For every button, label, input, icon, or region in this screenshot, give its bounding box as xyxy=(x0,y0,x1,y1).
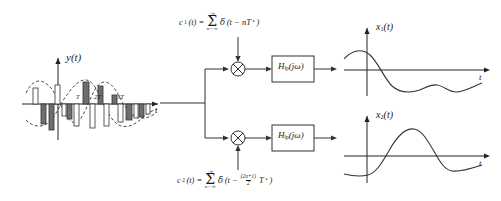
sample-bar xyxy=(134,104,138,118)
sample-bar xyxy=(118,104,123,122)
x1-curve xyxy=(344,51,482,92)
tick-label-T: T xyxy=(76,93,80,100)
sample-bar xyxy=(83,82,89,104)
tick-label-3T: 3T xyxy=(117,93,124,100)
tick-label-2T: 2T xyxy=(94,93,101,100)
output-signal-x2-plot xyxy=(340,101,501,201)
carrier-equation-bottom: c2(t) = +∞ Σ n=−∞ δ(t − (2n+1)2T*) xyxy=(177,170,272,190)
x1-axes xyxy=(344,28,490,96)
multiplexed-signal-plot: y(t) t T 2T 3T xyxy=(0,0,175,201)
x2-time-axis-label: t xyxy=(479,159,482,168)
y-plot-svg xyxy=(0,0,175,201)
recovered-signals-panel: x1(t) t x2(t) t xyxy=(340,0,501,201)
top-branch xyxy=(205,37,337,82)
lowpass-filter-top-label: Hlp(jω) xyxy=(278,62,304,72)
sample-bar xyxy=(33,88,38,104)
x2-axis-label: x2(t) xyxy=(376,110,393,121)
bottom-branch xyxy=(205,125,337,170)
lowpass-filter-bottom-label: Hlp(jω) xyxy=(278,131,304,141)
x2-axes xyxy=(344,116,490,183)
sample-bar xyxy=(41,104,46,124)
carrier-equation-top: c1(t) = +∞ Σ n=−∞ δ(t − nT*) xyxy=(179,12,259,32)
sample-bar xyxy=(139,104,144,117)
output-signal-x1-plot xyxy=(340,0,501,100)
signal-processing-figure: y(t) t T 2T 3T xyxy=(0,0,501,201)
sample-bar xyxy=(90,104,95,128)
x1-axis-label: x1(t) xyxy=(376,22,393,33)
demultiplexer-block-diagram: c1(t) = +∞ Σ n=−∞ δ(t − nT*) c2(t) = +∞ … xyxy=(165,0,345,201)
sample-bar xyxy=(104,104,109,126)
input-wire xyxy=(160,69,205,138)
sample-bar xyxy=(62,104,66,116)
x2-curve xyxy=(344,129,482,176)
sample-bar xyxy=(146,104,150,114)
y-axis-label: y(t) xyxy=(66,52,81,63)
x-axis-label: t xyxy=(155,106,158,115)
sample-bars xyxy=(33,82,150,130)
summation-symbol-top: +∞ Σ n=−∞ xyxy=(207,12,218,32)
sample-bar xyxy=(74,104,79,126)
x1-time-axis-label: t xyxy=(479,73,482,82)
sample-bar xyxy=(67,104,72,119)
fraction-2n-plus-1-over-2: (2n+1)2 xyxy=(240,174,257,186)
sample-bar xyxy=(126,104,132,120)
summation-symbol-bottom: +∞ Σ n=−∞ xyxy=(205,170,216,190)
sample-bar xyxy=(49,104,54,130)
sample-bar xyxy=(55,85,60,104)
